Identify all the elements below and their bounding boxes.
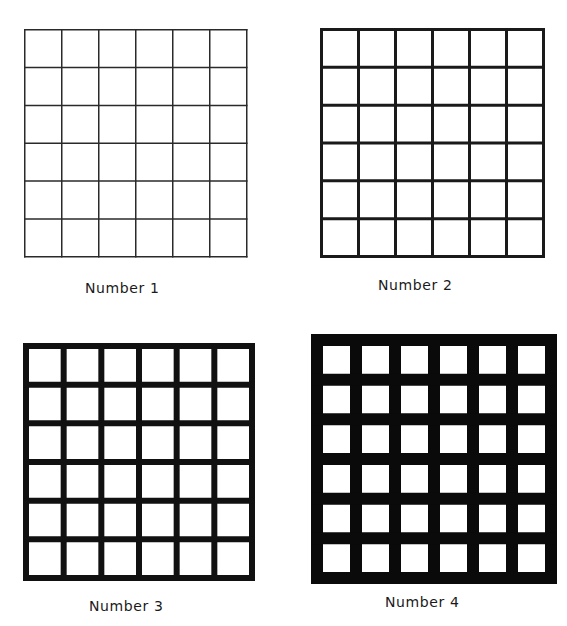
grid-number-4	[311, 334, 557, 584]
grid-number-3	[23, 343, 255, 581]
grid-number-2	[320, 28, 545, 258]
grid-number-1	[24, 29, 248, 258]
label-number-1: Number 1	[85, 280, 159, 296]
label-number-4: Number 4	[385, 594, 459, 610]
label-number-3: Number 3	[89, 598, 163, 614]
label-number-2: Number 2	[378, 277, 452, 293]
